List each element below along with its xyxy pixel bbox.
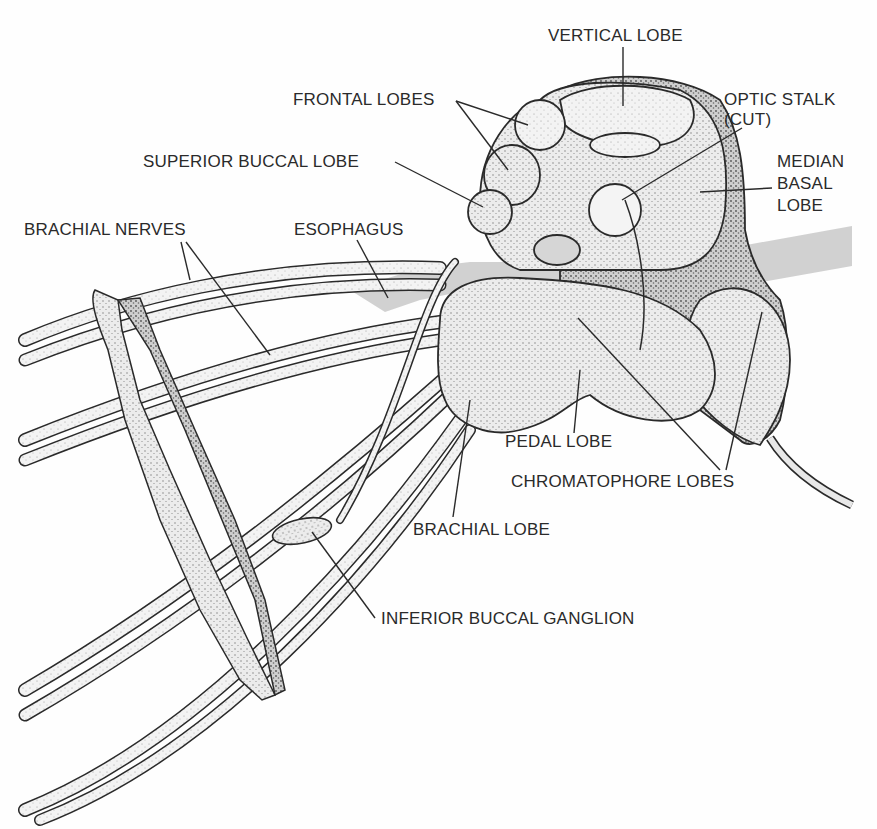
label-brachial-lobe: BRACHIAL LOBE xyxy=(413,520,550,540)
label-esophagus: ESOPHAGUS xyxy=(294,220,404,240)
interbrachial-connectives xyxy=(93,290,285,700)
label-optic-stalk-line1: OPTIC STALK xyxy=(724,90,835,110)
label-inferior-buccal-ganglion: INFERIOR BUCCAL GANGLION xyxy=(381,609,635,629)
label-frontal-lobes: FRONTAL LOBES xyxy=(293,90,434,110)
anatomy-diagram: VERTICAL LOBE FRONTAL LOBES OPTIC STALK … xyxy=(0,0,877,829)
label-median-basal-line2: BASAL xyxy=(777,174,833,194)
label-optic-stalk-line2: (CUT) xyxy=(724,110,771,130)
brachial-nerves xyxy=(25,262,470,820)
label-superior-buccal-lobe: SUPERIOR BUCCAL LOBE xyxy=(143,152,359,172)
label-vertical-lobe: VERTICAL LOBE xyxy=(548,26,683,46)
label-brachial-nerves: BRACHIAL NERVES xyxy=(24,220,186,240)
label-median-basal-line1: MEDIAN xyxy=(777,152,844,172)
brain xyxy=(438,77,852,505)
label-chromatophore-lobes: CHROMATOPHORE LOBES xyxy=(511,472,734,492)
label-pedal-lobe: PEDAL LOBE xyxy=(505,432,612,452)
label-median-basal-line3: LOBE xyxy=(777,196,823,216)
